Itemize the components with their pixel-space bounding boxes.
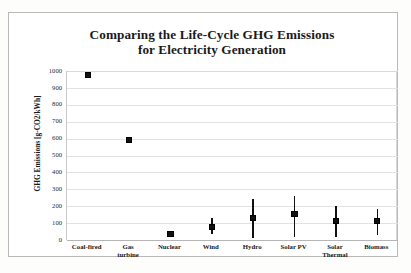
x-tick-label-wind: Wind <box>190 243 231 251</box>
data-point <box>150 71 191 240</box>
y-tick-label-600: 600 <box>22 135 62 142</box>
y-tick-label-100: 100 <box>22 220 62 227</box>
series-marker <box>333 218 339 224</box>
series-marker <box>209 224 215 230</box>
chart-title: Comparing the Life-Cycle GHG Emissions f… <box>17 27 407 57</box>
series-marker <box>374 218 380 224</box>
series-marker <box>126 137 132 143</box>
data-point <box>67 71 108 240</box>
x-tick-label-line: Solar <box>314 243 355 251</box>
y-tick-label-200: 200 <box>22 203 62 210</box>
x-tick-label-line: Thermal <box>314 251 355 259</box>
gridline-0 <box>67 240 398 241</box>
x-tick-label-line: Wind <box>190 243 231 251</box>
x-tick-label-line: Gas <box>107 243 148 251</box>
data-point <box>274 71 315 240</box>
y-tick-label-800: 800 <box>22 101 62 108</box>
x-tick-label-hydro: Hydro <box>232 243 273 251</box>
x-tick-label-line: Coal-fired <box>66 243 107 251</box>
data-point <box>357 71 398 240</box>
chart-frame: Comparing the Life-Cycle GHG Emissions f… <box>8 12 398 257</box>
data-point <box>191 71 232 240</box>
y-tick-label-500: 500 <box>22 152 62 159</box>
x-axis-labels: Coal-firedGasturbineNuclearWindHydroSola… <box>66 243 397 269</box>
data-point <box>315 71 356 240</box>
x-tick-label-line: turbine <box>107 251 148 259</box>
x-tick-label-line: Nuclear <box>149 243 190 251</box>
x-tick-label-solar-pv: Solar PV <box>273 243 314 251</box>
chart-title-line-2: for Electricity Generation <box>17 42 407 57</box>
series-marker <box>250 215 256 221</box>
x-tick-label-biomass: Biomass <box>356 243 397 251</box>
y-tick-label-300: 300 <box>22 186 62 193</box>
y-tick-label-1000: 1000 <box>22 68 62 75</box>
x-tick-label-gas-turbine: Gasturbine <box>107 243 148 259</box>
plot-area <box>66 71 397 240</box>
x-tick-label-coal-fired: Coal-fired <box>66 243 107 251</box>
x-tick-label-line: Hydro <box>232 243 273 251</box>
series-marker <box>167 231 173 237</box>
y-tick-label-400: 400 <box>22 169 62 176</box>
series-marker <box>85 72 91 78</box>
x-tick-label-nuclear: Nuclear <box>149 243 190 251</box>
y-tick-label-0: 0 <box>22 237 62 244</box>
y-tick-label-900: 900 <box>22 85 62 92</box>
series-marker <box>291 211 297 217</box>
data-point <box>233 71 274 240</box>
x-tick-label-line: Biomass <box>356 243 397 251</box>
y-tick-label-700: 700 <box>22 118 62 125</box>
chart-title-line-1: Comparing the Life-Cycle GHG Emissions <box>90 27 335 42</box>
x-tick-label-line: Solar PV <box>273 243 314 251</box>
chart-screenshot: Comparing the Life-Cycle GHG Emissions f… <box>0 0 411 273</box>
data-point <box>108 71 149 240</box>
x-tick-label-solar-thermal: SolarThermal <box>314 243 355 259</box>
